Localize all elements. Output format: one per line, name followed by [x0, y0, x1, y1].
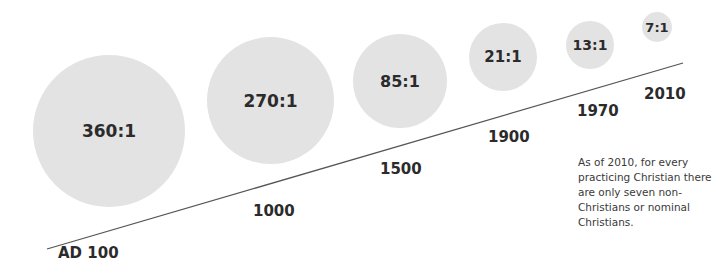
- year-label-1500: 1500: [380, 160, 422, 178]
- year-label-ad100: AD 100: [58, 244, 119, 262]
- year-label-1000: 1000: [253, 202, 295, 220]
- ratio-bubble-chart: 360:1 270:1 85:1 21:1 13:1 7:1 AD 100 10…: [0, 0, 717, 268]
- bubble-ad100: 360:1: [33, 55, 185, 207]
- bubble-ratio-label: 270:1: [243, 91, 297, 111]
- bubble-2010: 7:1: [642, 12, 672, 42]
- bubble-ratio-label: 21:1: [484, 48, 521, 66]
- bubble-ratio-label: 13:1: [573, 37, 608, 53]
- bubble-ratio-label: 7:1: [645, 20, 668, 35]
- bubble-ratio-label: 85:1: [380, 72, 420, 91]
- bubble-1900: 21:1: [469, 23, 537, 91]
- bubble-ratio-label: 360:1: [82, 121, 136, 141]
- year-label-1970: 1970: [577, 102, 619, 120]
- annotation-note: As of 2010, for every practicing Christi…: [578, 155, 713, 230]
- bubble-1970: 13:1: [566, 21, 614, 69]
- year-label-1900: 1900: [488, 128, 530, 146]
- year-label-2010: 2010: [644, 85, 686, 103]
- bubble-1500: 85:1: [353, 34, 447, 128]
- bubble-1000: 270:1: [207, 37, 334, 164]
